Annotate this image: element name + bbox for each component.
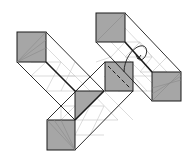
origami-diagram bbox=[0, 0, 193, 160]
